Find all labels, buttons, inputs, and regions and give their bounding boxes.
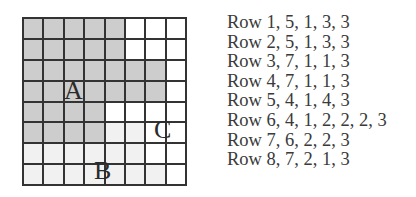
grid-cell [106, 19, 124, 38]
grid-cell [85, 61, 103, 80]
grid-cell [126, 82, 144, 101]
encoding-row-8: Row 8, 7, 2, 1, 3 [227, 150, 387, 170]
grid-cell [44, 144, 62, 163]
grid-cell [44, 61, 62, 80]
grid-cell [167, 19, 185, 38]
encoding-row-3: Row 3, 7, 1, 1, 3 [227, 52, 387, 72]
grid-cell [126, 165, 144, 184]
encoding-list: Row 1, 5, 1, 3, 3 Row 2, 5, 1, 3, 3 Row … [227, 13, 387, 170]
grid-cell [65, 103, 83, 122]
grid-cell [126, 61, 144, 80]
region-label-c: C [154, 117, 171, 143]
grid-cell [24, 19, 42, 38]
grid-cell [44, 40, 62, 59]
grid-cell [24, 123, 42, 142]
grid-cell [44, 123, 62, 142]
grid-cell [126, 123, 144, 142]
grid-cell [85, 40, 103, 59]
grid-cell [65, 144, 83, 163]
grid-cell [24, 144, 42, 163]
grid-cell [106, 61, 124, 80]
encoding-row-7: Row 7, 6, 2, 2, 3 [227, 131, 387, 151]
grid-cell [146, 61, 164, 80]
grid-cell [146, 82, 164, 101]
grid-cell [44, 165, 62, 184]
grid-cell [44, 19, 62, 38]
encoding-row-4: Row 4, 7, 1, 1, 3 [227, 72, 387, 92]
grid-cell [24, 165, 42, 184]
grid-cell [44, 103, 62, 122]
grid-cell [167, 144, 185, 163]
grid-cell [106, 40, 124, 59]
grid-cell [167, 165, 185, 184]
grid-cell [24, 82, 42, 101]
grid-cell [24, 61, 42, 80]
grid-cell [44, 82, 62, 101]
encoding-row-1: Row 1, 5, 1, 3, 3 [227, 13, 387, 33]
grid-cell [85, 82, 103, 101]
grid-cell [24, 103, 42, 122]
grid-cell [65, 40, 83, 59]
grid-cell [106, 103, 124, 122]
grid-cell [106, 82, 124, 101]
grid-cell [65, 165, 83, 184]
grid-cell [126, 19, 144, 38]
grid-cell [146, 144, 164, 163]
grid-cell [146, 165, 164, 184]
grid-cell [167, 40, 185, 59]
grid-cell [167, 82, 185, 101]
region-label-a: A [64, 78, 83, 104]
grid-cell [65, 19, 83, 38]
grid-cell [24, 40, 42, 59]
grid-cell [146, 19, 164, 38]
grid-cell [146, 40, 164, 59]
grid-cell [126, 144, 144, 163]
encoding-row-2: Row 2, 5, 1, 3, 3 [227, 33, 387, 53]
grid-cell [85, 123, 103, 142]
encoding-row-5: Row 5, 4, 1, 4, 3 [227, 91, 387, 111]
grid-cell [65, 123, 83, 142]
grid-cell [85, 103, 103, 122]
grid-cell [126, 103, 144, 122]
grid-cell [167, 61, 185, 80]
encoding-row-6: Row 6, 4, 1, 2, 2, 2, 3 [227, 111, 387, 131]
grid-cell [106, 123, 124, 142]
region-label-b: B [94, 158, 111, 184]
grid-cell [85, 19, 103, 38]
grid-cell [126, 40, 144, 59]
